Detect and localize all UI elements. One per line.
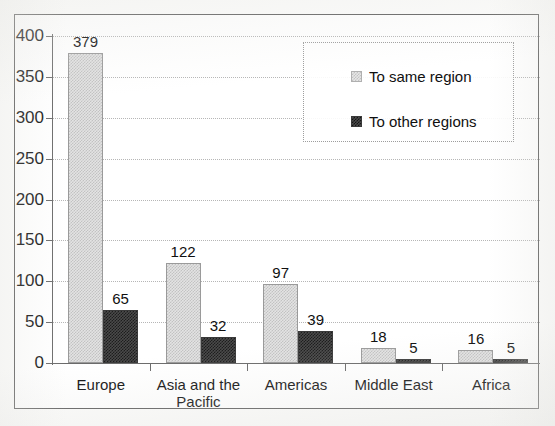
y-axis-tick-label: 350: [4, 68, 44, 85]
legend-swatch-light-icon: [351, 71, 362, 82]
bar-value-label: 65: [103, 291, 138, 306]
category-label: Europe: [52, 376, 150, 393]
y-axis-tick-label: 250: [4, 150, 44, 167]
y-axis-tick: [46, 200, 53, 201]
y-axis-tick: [46, 240, 53, 241]
bar: [103, 310, 138, 363]
category-label: Africa: [442, 376, 540, 393]
bar: [458, 350, 493, 363]
scanned-page: 050100150200250300350400 379651223297391…: [0, 0, 555, 426]
category-label: Middle East: [345, 376, 443, 393]
bar: [396, 359, 431, 363]
bar: [166, 263, 201, 363]
legend-label-to-same-region: To same region: [369, 69, 472, 84]
y-axis-tick-label: 200: [4, 191, 44, 208]
x-axis-group-separator: [345, 363, 346, 371]
x-axis-line: [52, 363, 540, 364]
y-axis-tick: [46, 322, 53, 323]
y-axis-tick-label: 300: [4, 109, 44, 126]
gridline: [52, 200, 540, 201]
category-label: Americas: [247, 376, 345, 393]
bar: [68, 53, 103, 363]
y-axis-tick-label: 400: [4, 27, 44, 44]
bar-value-label: 5: [493, 340, 528, 355]
x-axis-group-separator: [442, 363, 443, 371]
bar: [263, 284, 298, 363]
y-axis-tick: [46, 36, 53, 37]
legend-swatch-dark-icon: [351, 116, 362, 127]
x-axis-group-separator: [150, 363, 151, 371]
bar-value-label: 5: [396, 340, 431, 355]
bar-value-label: 379: [68, 34, 103, 49]
bar: [298, 331, 333, 363]
bar-value-label: 16: [458, 331, 493, 346]
y-axis-tick: [46, 159, 53, 160]
legend-label-to-other-regions: To other regions: [369, 114, 477, 129]
gridline: [52, 240, 540, 241]
gridline: [52, 36, 540, 37]
bar-value-label: 18: [361, 329, 396, 344]
legend-item-to-same-region: To same region: [351, 69, 472, 84]
bar-value-label: 39: [298, 312, 333, 327]
bar-value-label: 32: [201, 318, 236, 333]
y-axis-tick: [46, 363, 53, 364]
bar: [361, 348, 396, 363]
bar: [493, 359, 528, 363]
y-axis-tick-labels: 050100150200250300350400: [0, 0, 44, 426]
chart-legend: To same region To other regions: [303, 42, 514, 142]
y-axis-tick-label: 50: [4, 313, 44, 330]
gridline: [52, 281, 540, 282]
x-axis-group-separator: [247, 363, 248, 371]
y-axis-tick: [46, 118, 53, 119]
bar-value-label: 97: [263, 265, 298, 280]
y-axis-tick-label: 0: [4, 354, 44, 371]
y-axis-tick-label: 100: [4, 272, 44, 289]
bar: [201, 337, 236, 363]
category-label: Asia and the Pacific: [150, 376, 248, 410]
y-axis-tick: [46, 281, 53, 282]
y-axis-tick: [46, 77, 53, 78]
y-axis-tick-label: 150: [4, 231, 44, 248]
legend-item-to-other-regions: To other regions: [351, 114, 477, 129]
bar-value-label: 122: [166, 244, 201, 259]
gridline: [52, 159, 540, 160]
